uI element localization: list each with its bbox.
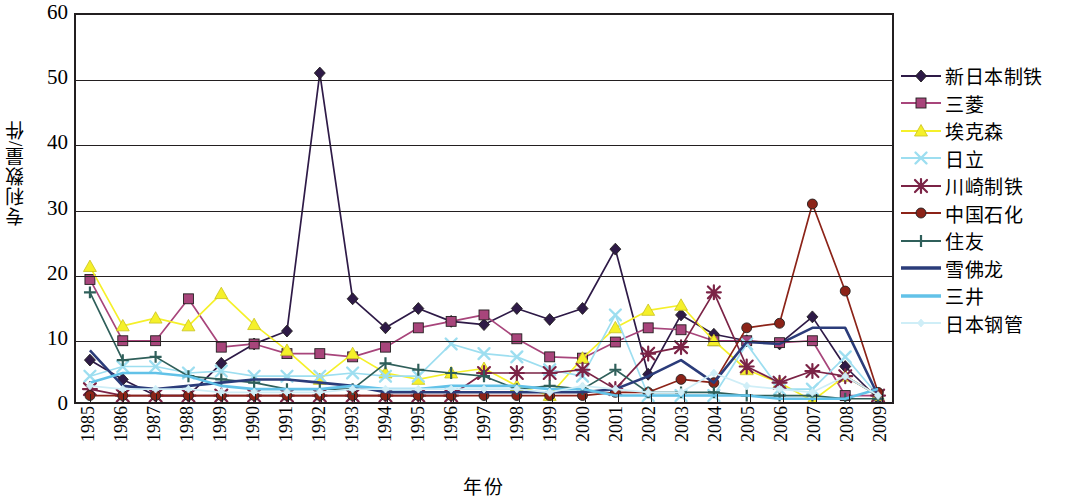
data-point — [609, 364, 621, 376]
data-point — [117, 354, 129, 366]
gridline-50 — [76, 80, 892, 81]
legend-label: 川崎制铁 — [942, 172, 1023, 199]
y-tick-10: 10 — [22, 328, 68, 349]
data-point — [675, 299, 688, 310]
x-tick-2004: 2004 — [706, 406, 724, 442]
x-tick-mark — [354, 394, 355, 402]
plot-area — [74, 13, 894, 404]
data-point — [610, 309, 621, 320]
x-tick-2007: 2007 — [805, 406, 823, 442]
data-point — [775, 318, 785, 328]
legend-item-1[interactable]: 三菱 — [900, 90, 1072, 118]
legend-item-0[interactable]: 新日本制铁 — [900, 62, 1072, 90]
x-tick-2003: 2003 — [673, 406, 691, 442]
legend-key-icon — [900, 93, 942, 113]
x-tick-mark — [816, 394, 817, 402]
legend-item-7[interactable]: 雪佛龙 — [900, 255, 1072, 283]
legend-key-icon — [900, 313, 942, 333]
data-point — [576, 363, 590, 377]
x-axis-tick-labels: 1985198619871988198919901991199219931994… — [74, 406, 894, 472]
x-tick-mark — [882, 394, 883, 402]
x-tick-2006: 2006 — [772, 406, 790, 442]
legend-label: 三菱 — [942, 90, 984, 117]
x-tick-1988: 1988 — [178, 406, 196, 442]
x-tick-2005: 2005 — [739, 406, 757, 442]
x-tick-mark — [156, 394, 157, 402]
y-tick-50: 50 — [22, 67, 68, 88]
data-point — [807, 199, 817, 209]
gridline-20 — [76, 276, 892, 277]
data-point — [510, 366, 524, 380]
data-point — [707, 285, 721, 299]
data-point — [183, 294, 193, 304]
data-point — [446, 316, 456, 326]
legend-item-9[interactable]: 日本钢管 — [900, 310, 1072, 338]
legend-key-icon — [900, 121, 942, 141]
data-point — [315, 349, 325, 359]
legend-item-6[interactable]: 住友 — [900, 227, 1072, 255]
x-tick-mark — [288, 394, 289, 402]
legend-item-8[interactable]: 三井 — [900, 282, 1072, 310]
x-tick-2009: 2009 — [871, 406, 889, 442]
legend-key-icon — [900, 286, 942, 306]
data-point — [314, 67, 325, 79]
legend-label: 新日本制铁 — [942, 62, 1043, 89]
x-tick-mark — [189, 394, 190, 402]
data-point — [610, 337, 620, 347]
x-tick-mark — [255, 394, 256, 402]
y-tick-30: 30 — [22, 198, 68, 219]
legend-item-3[interactable]: 日立 — [900, 145, 1072, 173]
legend-item-2[interactable]: 埃克森 — [900, 117, 1072, 145]
x-tick-mark — [321, 394, 322, 402]
data-point — [676, 325, 686, 335]
gridline-40 — [76, 145, 892, 146]
x-tick-mark — [618, 394, 619, 402]
x-tick-1987: 1987 — [145, 406, 163, 442]
x-tick-mark — [453, 394, 454, 402]
y-axis-tick-labels: 0102030405060 — [14, 0, 68, 420]
data-point — [805, 364, 819, 378]
legend-key-icon — [900, 231, 942, 251]
legend-label: 中国石化 — [942, 200, 1023, 227]
legend-key-icon — [900, 66, 942, 86]
x-tick-mark — [651, 394, 652, 402]
data-point — [216, 342, 226, 352]
legend-key-icon — [900, 258, 942, 278]
data-point — [710, 369, 717, 377]
legend-label: 日本钢管 — [942, 310, 1023, 337]
data-point — [545, 352, 555, 362]
data-point — [281, 325, 292, 337]
legend-label: 住友 — [942, 227, 984, 254]
x-tick-mark — [585, 394, 586, 402]
legend-item-4[interactable]: 川崎制铁 — [900, 172, 1072, 200]
x-tick-mark — [750, 394, 751, 402]
data-point — [479, 310, 489, 320]
chart-legend: 新日本制铁三菱埃克森日立川崎制铁中国石化住友雪佛龙三井日本钢管 — [900, 62, 1072, 337]
x-tick-1993: 1993 — [343, 406, 361, 442]
x-tick-1999: 1999 — [541, 406, 559, 442]
data-point — [544, 314, 555, 326]
legend-label: 雪佛龙 — [942, 255, 1004, 282]
data-point — [413, 303, 424, 315]
data-point — [512, 334, 522, 344]
x-tick-1986: 1986 — [112, 406, 130, 442]
data-point — [83, 260, 96, 271]
legend-item-5[interactable]: 中国石化 — [900, 200, 1072, 228]
y-tick-0: 0 — [22, 393, 68, 414]
y-tick-40: 40 — [22, 132, 68, 153]
x-tick-2002: 2002 — [640, 406, 658, 442]
x-tick-1996: 1996 — [442, 406, 460, 442]
gridline-30 — [76, 211, 892, 212]
data-point — [676, 309, 687, 321]
x-tick-2001: 2001 — [607, 406, 625, 442]
gridline-10 — [76, 341, 892, 342]
data-point — [149, 312, 162, 323]
legend-key-icon — [900, 148, 942, 168]
x-tick-1991: 1991 — [277, 406, 295, 442]
data-point — [381, 342, 391, 352]
x-tick-2008: 2008 — [838, 406, 856, 442]
x-tick-mark — [783, 394, 784, 402]
x-tick-1997: 1997 — [475, 406, 493, 442]
data-point — [676, 374, 686, 384]
x-tick-mark — [849, 394, 850, 402]
